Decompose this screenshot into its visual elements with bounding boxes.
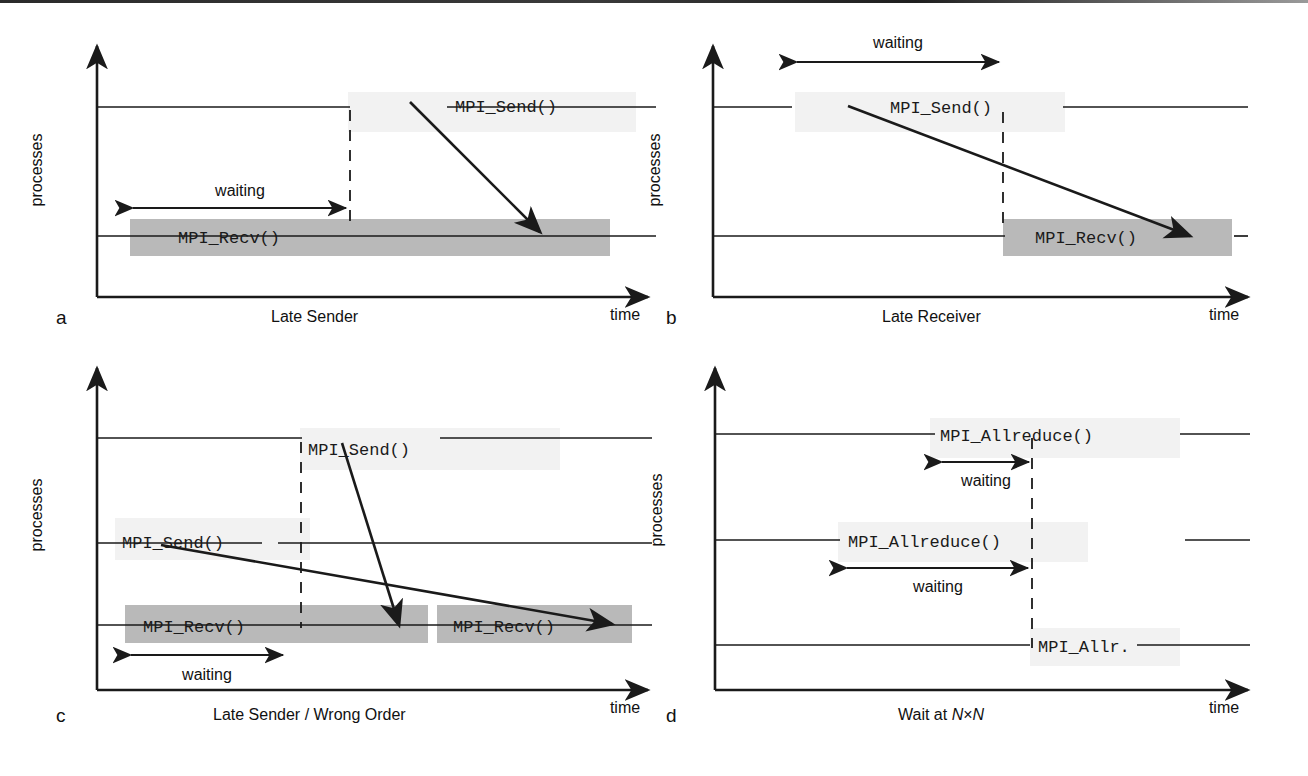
- send-label: MPI_Send(): [890, 99, 992, 118]
- x-axis-label: time: [1209, 699, 1239, 716]
- caption-prefix: Wait at: [898, 706, 952, 723]
- allreduce-middle-halo: [838, 522, 1088, 562]
- panel-caption-b: Late Receiver: [882, 308, 981, 326]
- panel-letter-d: d: [666, 705, 677, 727]
- recv-label: MPI_Recv(): [1035, 229, 1137, 248]
- message-arrow-upper: [342, 443, 399, 625]
- recv-first-label: MPI_Recv(): [143, 618, 245, 637]
- caption-n2: N: [973, 706, 985, 723]
- recv-second-label: MPI_Recv(): [453, 618, 555, 637]
- panel-caption-d: Wait at N×N: [898, 706, 984, 724]
- allreduce-top-label: MPI_Allreduce(): [940, 427, 1093, 446]
- x-axis-label: time: [1209, 306, 1239, 323]
- x-axis-label: time: [610, 306, 640, 323]
- recv-band: [1003, 219, 1232, 256]
- panel-c: processes time MPI_Send() MPI_Send() MPI…: [0, 340, 680, 740]
- allreduce-bottom-halo: [1030, 628, 1180, 666]
- panel-letter-a: a: [56, 307, 67, 329]
- figure-page: processes time MPI_Send() MPI_Recv() wai…: [0, 0, 1308, 776]
- recv-label: MPI_Recv(): [178, 229, 280, 248]
- send-middle-label: MPI_Send(): [122, 534, 224, 553]
- waiting-label: waiting: [181, 666, 232, 683]
- waiting-top-label: waiting: [960, 472, 1011, 489]
- x-axis-label: time: [610, 699, 640, 716]
- panel-caption-c: Late Sender / Wrong Order: [213, 706, 406, 724]
- allreduce-top-halo: [930, 418, 1180, 458]
- panel-letter-c: c: [56, 705, 66, 727]
- y-axis-label: processes: [28, 134, 45, 207]
- send-label: MPI_Send(): [455, 98, 557, 117]
- allreduce-bottom-label: MPI_Allr.: [1038, 638, 1130, 657]
- message-arrow: [848, 106, 1190, 236]
- allreduce-middle-label: MPI_Allreduce(): [848, 533, 1001, 552]
- panel-caption-a: Late Sender: [271, 308, 358, 326]
- panel-letter-b: b: [666, 307, 677, 329]
- caption-n1: N: [952, 706, 964, 723]
- waiting-label: waiting: [872, 34, 923, 51]
- send-upper-label: MPI_Send(): [308, 441, 410, 460]
- waiting-label: waiting: [214, 182, 265, 199]
- y-axis-label: processes: [28, 479, 45, 552]
- send-label-halo: [795, 92, 1065, 132]
- caption-times: ×: [963, 706, 972, 723]
- panel-a: processes time MPI_Send() MPI_Recv() wai…: [0, 0, 680, 340]
- waiting-middle-label: waiting: [912, 578, 963, 595]
